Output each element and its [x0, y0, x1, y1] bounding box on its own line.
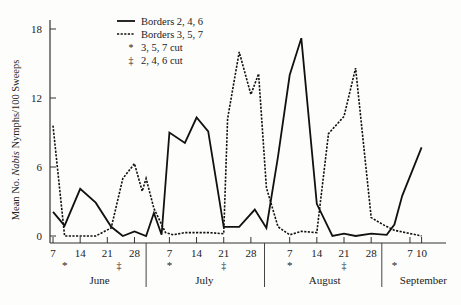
legend-asterisk-icon: * [129, 42, 134, 53]
cut-marker-246: ‡ [116, 260, 121, 271]
x-tick-label: 21 [339, 247, 350, 259]
x-tick-label: 21 [102, 247, 113, 259]
cut-marker-246: ‡ [221, 260, 226, 271]
cut-marker-357: * [287, 259, 293, 271]
x-tick-label: 7 [407, 247, 413, 259]
y-tick-label: 6 [37, 161, 43, 173]
axes: 061218714212871421287142128710JuneJulyAu… [31, 20, 447, 287]
legend-label: 3, 5, 7 cut [141, 42, 183, 53]
cut-marker-357: * [62, 259, 68, 271]
legend-label: Borders 3, 5, 7 [141, 29, 203, 40]
legend: Borders 2, 4, 6Borders 3, 5, 7*3, 5, 7 c… [117, 16, 203, 66]
y-tick-label: 18 [31, 23, 43, 35]
series-borders-3-5-7 [53, 52, 422, 236]
x-tick-label: 7 [50, 247, 56, 259]
x-tick-label: 7 [167, 247, 173, 259]
legend-label: Borders 2, 4, 6 [141, 16, 203, 27]
cut-marker-357: * [392, 259, 398, 271]
x-tick-label: 28 [366, 247, 378, 259]
month-label: June [89, 274, 109, 286]
x-tick-label: 28 [129, 247, 141, 259]
series-layer [53, 38, 422, 236]
x-tick-label: 21 [218, 247, 229, 259]
legend-label: 2, 4, 6 cut [141, 55, 183, 66]
chart-figure: 061218714212871421287142128710JuneJulyAu… [0, 0, 461, 305]
month-label: July [195, 274, 214, 286]
cut-marker-357: * [167, 259, 173, 271]
series-borders-2-4-6 [53, 38, 422, 236]
month-label: September [400, 274, 447, 286]
y-tick-label: 0 [37, 230, 43, 242]
cut-marker-246: ‡ [342, 260, 347, 271]
x-tick-label: 14 [191, 247, 203, 259]
x-tick-label: 10 [416, 247, 428, 259]
y-tick-label: 12 [31, 92, 42, 104]
x-tick-label: 7 [287, 247, 293, 259]
y-axis-label: Mean No. Nabis Nymphs/100 Sweeps [10, 60, 21, 221]
x-tick-label: 28 [245, 247, 257, 259]
x-tick-label: 14 [75, 247, 87, 259]
legend-double-dagger-icon: ‡ [129, 55, 134, 66]
x-tick-label: 14 [311, 247, 323, 259]
line-chart: 061218714212871421287142128710JuneJulyAu… [0, 0, 461, 305]
month-label: August [309, 274, 341, 286]
